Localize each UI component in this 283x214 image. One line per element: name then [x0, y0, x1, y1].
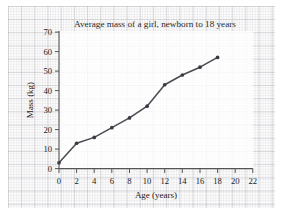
y-axis-label: Mass (kg): [25, 82, 35, 118]
y-tick-label: 0: [48, 164, 52, 174]
data-point: [128, 116, 132, 120]
x-tick-label: 8: [127, 176, 131, 186]
data-point: [92, 136, 96, 140]
y-tick-labels: 0 10 20 30 40 50 60 70: [43, 27, 52, 174]
x-tick-label: 4: [92, 176, 97, 186]
series-line: [59, 57, 218, 162]
line-chart: Average mass of a girl, newborn to 18 ye…: [0, 0, 283, 214]
x-tick-label: 0: [57, 176, 61, 186]
data-point: [216, 56, 220, 60]
y-tick-label: 10: [43, 144, 52, 154]
x-tick-label: 18: [213, 176, 222, 186]
x-axis-label: Age (years): [135, 190, 177, 200]
x-tick-label: 16: [196, 176, 205, 186]
x-tick-label: 14: [178, 176, 187, 186]
y-tick-label: 20: [43, 125, 52, 135]
data-point: [75, 141, 79, 145]
x-tick-marks: [59, 169, 253, 173]
x-tick-label: 6: [110, 176, 115, 186]
x-tick-labels: 0 2 4 6 8 10 12 14 16 18 20 22: [57, 176, 257, 186]
x-tick-label: 12: [160, 176, 169, 186]
data-point: [198, 65, 202, 69]
data-point: [145, 104, 149, 108]
y-tick-label: 60: [43, 47, 52, 57]
x-tick-label: 22: [249, 176, 258, 186]
data-point: [57, 161, 61, 165]
chart-page: Average mass of a girl, newborn to 18 ye…: [0, 0, 283, 214]
y-tick-marks: [55, 32, 59, 169]
data-point: [110, 126, 114, 130]
data-point: [163, 83, 167, 87]
y-tick-label: 30: [43, 105, 52, 115]
data-point: [180, 73, 184, 77]
x-axis: 0 2 4 6 8 10 12 14 16 18 20 22 Age (year…: [57, 169, 257, 200]
series-points: [57, 56, 219, 165]
chart-title: Average mass of a girl, newborn to 18 ye…: [74, 19, 236, 29]
x-tick-label: 10: [143, 176, 152, 186]
y-axis: 0 10 20 30 40 50 60 70 Mass (kg): [25, 27, 59, 174]
y-tick-label: 40: [43, 86, 52, 96]
x-tick-label: 20: [231, 176, 240, 186]
y-tick-label: 70: [43, 27, 52, 37]
x-tick-label: 2: [74, 176, 78, 186]
y-tick-label: 50: [43, 66, 52, 76]
data-series: [57, 56, 219, 165]
